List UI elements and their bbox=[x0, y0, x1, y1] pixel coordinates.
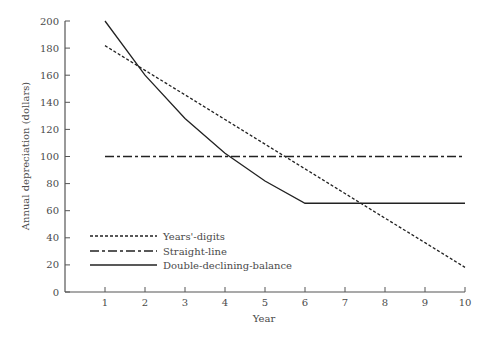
y-tick-label: 120 bbox=[40, 124, 59, 135]
x-tick-label: 7 bbox=[342, 297, 348, 308]
y-axis-label: Annual depreciation (dollars) bbox=[20, 82, 31, 232]
y-tick-label: 20 bbox=[46, 259, 59, 270]
depreciation-chart: 02040608010012014016018020012345678910 Y… bbox=[0, 0, 487, 338]
series-lines bbox=[105, 21, 465, 267]
x-tick-label: 2 bbox=[142, 297, 148, 308]
series-line-double-declining-balance bbox=[105, 21, 465, 203]
legend-label: Double-declining-balance bbox=[163, 260, 292, 271]
x-tick-label: 5 bbox=[262, 297, 268, 308]
y-tick-label: 200 bbox=[40, 16, 59, 27]
y-tick-label: 0 bbox=[53, 287, 59, 298]
y-tick-label: 180 bbox=[40, 43, 59, 54]
y-tick-label: 60 bbox=[46, 205, 59, 216]
y-tick-label: 140 bbox=[40, 97, 59, 108]
x-tick-label: 8 bbox=[382, 297, 388, 308]
x-tick-label: 3 bbox=[182, 297, 188, 308]
x-tick-label: 6 bbox=[302, 297, 308, 308]
x-tick-label: 9 bbox=[422, 297, 428, 308]
x-tick-label: 1 bbox=[102, 297, 108, 308]
y-tick-label: 40 bbox=[46, 232, 59, 243]
y-tick-label: 100 bbox=[40, 151, 59, 162]
legend-label: Straight-line bbox=[163, 246, 227, 257]
legend: Years'-digitsStraight-lineDouble-declini… bbox=[90, 231, 292, 271]
y-tick-label: 160 bbox=[40, 70, 59, 81]
y-tick-label: 80 bbox=[46, 178, 59, 189]
x-axis-label: Year bbox=[252, 313, 276, 324]
legend-label: Years'-digits bbox=[162, 231, 225, 242]
x-tick-label: 4 bbox=[222, 297, 228, 308]
x-tick-label: 10 bbox=[459, 297, 472, 308]
